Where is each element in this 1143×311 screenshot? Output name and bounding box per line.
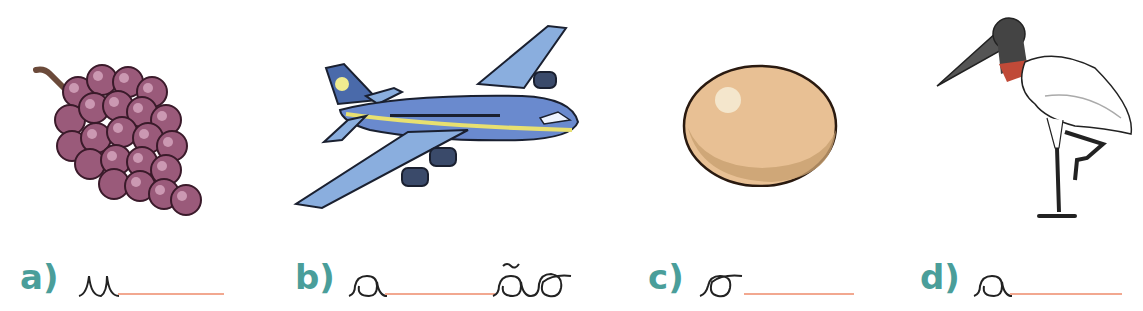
item-label: c) [648, 252, 684, 302]
airplane-icon [282, 22, 582, 217]
exercise-item-c: c) [648, 252, 868, 302]
answer-line[interactable] [744, 293, 854, 295]
exercise-item-a: a) [20, 252, 240, 302]
exercise-item-d: d) [920, 252, 1130, 302]
cursive-prefix-u [75, 252, 120, 302]
jabiru-stork-icon [935, 8, 1135, 223]
egg-picture [682, 62, 842, 187]
cursive-prefix-a [347, 252, 389, 302]
item-label: a) [20, 252, 58, 302]
jabiru-stork-picture [935, 8, 1135, 223]
item-label: b) [295, 252, 335, 302]
airplane-picture [282, 22, 582, 217]
grapes-picture [30, 50, 210, 220]
answer-line[interactable] [1010, 293, 1122, 295]
cursive-suffix-ao [493, 252, 583, 302]
exercise-item-b: b) [295, 252, 595, 302]
cursive-prefix-o [698, 252, 748, 302]
cursive-prefix-a [972, 252, 1014, 302]
egg-icon [682, 62, 842, 187]
answer-line[interactable] [118, 293, 224, 295]
grapes-icon [30, 50, 210, 220]
item-label: d) [920, 252, 960, 302]
answer-line[interactable] [385, 293, 495, 295]
